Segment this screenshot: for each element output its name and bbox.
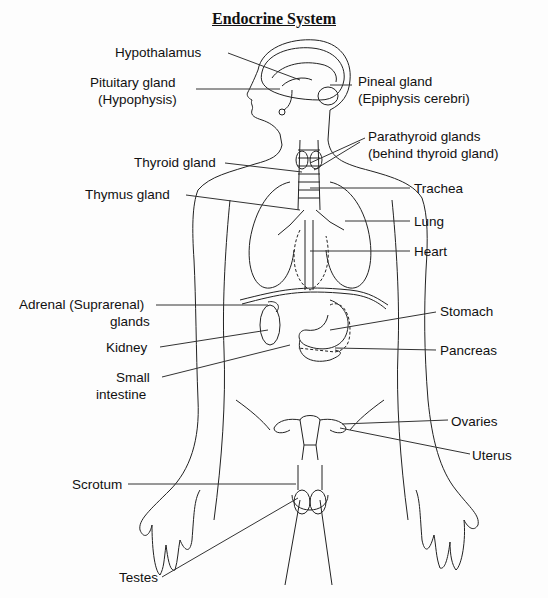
label-parathyroid-2: (behind thyroid gland) (368, 145, 499, 162)
label-ovaries: Ovaries (451, 413, 498, 430)
label-thyroid: Thyroid gland (134, 154, 216, 171)
label-testes: Testes (119, 569, 158, 586)
label-uterus: Uterus (472, 447, 512, 464)
label-pituitary-1: Pituitary gland (90, 74, 176, 91)
adrenal (268, 302, 278, 312)
label-trachea: Trachea (414, 180, 463, 197)
label-lung: Lung (414, 213, 444, 230)
torso-outline (140, 140, 478, 585)
head-outline (247, 40, 350, 145)
uterus-ovaries (274, 416, 346, 461)
label-pancreas: Pancreas (440, 342, 497, 359)
label-thymus: Thymus gland (85, 186, 170, 203)
label-adrenal-1: Adrenal (Suprarenal) (19, 296, 144, 313)
diaphragm (240, 288, 388, 305)
label-pineal-1: Pineal gland (358, 73, 432, 90)
label-hypothalamus: Hypothalamus (115, 44, 201, 61)
label-adrenal-2: glands (110, 313, 150, 330)
aorta (305, 220, 313, 290)
heart-outline (294, 230, 328, 290)
brain (261, 48, 344, 115)
pancreas (299, 340, 340, 361)
label-pituitary-2: (Hypophysis) (98, 91, 177, 108)
label-small-intestine-1: Small (116, 369, 150, 386)
label-kidney: Kidney (106, 339, 147, 356)
label-pineal-2: (Epiphysis cerebri) (358, 90, 470, 107)
label-small-intestine-2: intestine (96, 386, 146, 403)
label-stomach: Stomach (440, 303, 493, 320)
scrotum-testes (292, 465, 328, 514)
stomach (299, 300, 348, 349)
label-parathyroid-1: Parathyroid glands (368, 128, 481, 145)
label-heart: Heart (414, 243, 447, 260)
label-scrotum: Scrotum (72, 476, 122, 493)
